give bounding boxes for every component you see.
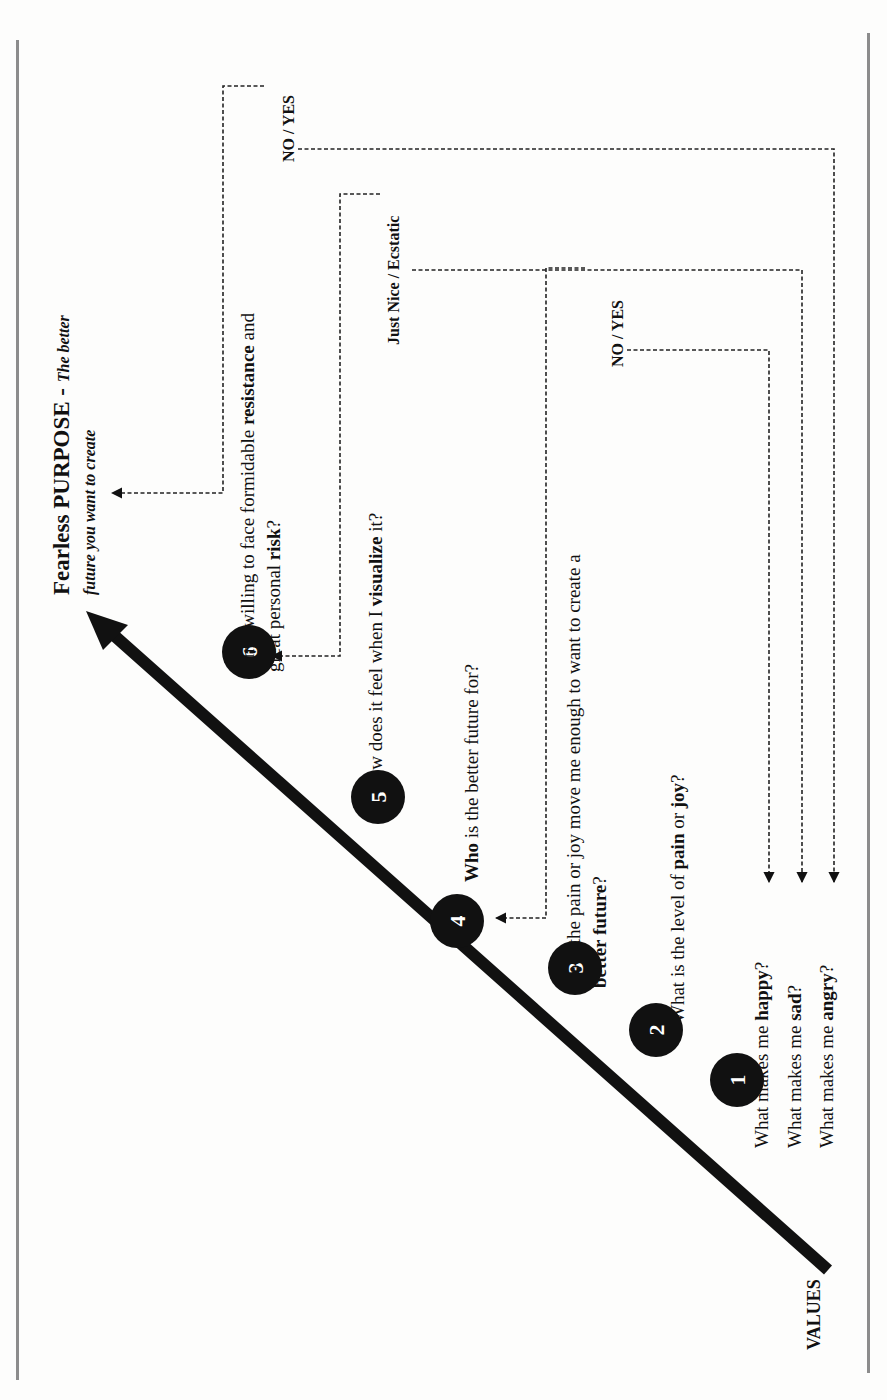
step6-bold-resistance: resistance: [237, 345, 258, 425]
step2-bold-pain: pain: [667, 834, 688, 870]
step1-bold-happy: happy: [751, 970, 772, 1021]
connector-noyes-lower-to-happy: [627, 350, 769, 882]
step3-question-line1: Does the pain or joy move me enough to w…: [564, 554, 583, 988]
purpose-title-dash: -: [49, 382, 74, 401]
step5-text-a: How does it feel when I: [365, 606, 386, 793]
step1-question-angry: What makes me angry?: [817, 965, 836, 1148]
step4-text: is the better future for?: [461, 664, 482, 843]
svg-text:4: 4: [445, 916, 470, 927]
values-label: VALUES: [805, 1279, 823, 1350]
step1-happy-text: What makes me: [751, 1021, 772, 1148]
step1-sad-text: What makes me: [784, 1021, 805, 1148]
step1-sad-q: ?: [784, 985, 805, 993]
step4-bold-who: Who: [461, 843, 482, 882]
step5-bold-visualize: visualize: [365, 537, 386, 607]
diagram-canvas: 1 2 3 4 5 6: [0, 0, 887, 1400]
step2-text-a: What is the level of: [667, 869, 688, 1023]
step6-text-b: and: [237, 313, 258, 345]
purpose-title: Fearless PURPOSE - The better: [50, 315, 73, 595]
step6-text-d: ?: [263, 520, 284, 528]
step2-text-c: ?: [667, 774, 688, 782]
svg-text:5: 5: [366, 792, 391, 803]
step1-bold-angry: angry: [816, 973, 837, 1021]
step6-text-c: great personal: [263, 560, 284, 672]
connector-step5-to-circle6: [272, 194, 380, 656]
purpose-subtitle-line1: The better: [55, 315, 72, 382]
step5-question: How does it feel when I visualize it?: [366, 513, 385, 793]
step1-question-happy: What makes me happy?: [752, 962, 771, 1148]
step5-text-b: it?: [365, 513, 386, 537]
step-circle-4: 4: [430, 894, 484, 948]
step1-bold-sad: sad: [784, 993, 805, 1020]
svg-text:2: 2: [644, 1025, 669, 1036]
step1-angry-text: What makes me: [816, 1021, 837, 1148]
step2-text-b: or: [667, 808, 688, 833]
answer-label-step5: Just Nice / Ecstatic: [386, 216, 402, 345]
step3-question-line2: better future?: [590, 876, 609, 988]
step2-bold-joy: joy: [667, 783, 688, 808]
step2-question: What is the level of pain or joy?: [668, 774, 687, 1023]
step3-text: ?: [589, 876, 610, 884]
step1-happy-q: ?: [751, 962, 772, 970]
step3-bold-better-future: better future: [589, 885, 610, 988]
step6-question-line1: Am I willing to face formidable resistan…: [238, 313, 257, 672]
step1-question-sad: What makes me sad?: [785, 985, 804, 1148]
step1-angry-q: ?: [816, 965, 837, 973]
step4-question: Who is the better future for?: [462, 664, 481, 882]
step6-text-a: Am I willing to face formidable: [237, 425, 258, 672]
svg-text:1: 1: [725, 1075, 750, 1086]
answer-label-step6: NO / YES: [281, 95, 297, 162]
purpose-subtitle-line2: future you want to create: [82, 430, 98, 595]
purpose-title-main: Fearless PURPOSE: [49, 401, 74, 595]
step6-bold-risk: risk: [263, 528, 284, 560]
step6-question-line2: great personal risk?: [264, 520, 283, 672]
answer-label-step3: NO / YES: [610, 300, 626, 367]
